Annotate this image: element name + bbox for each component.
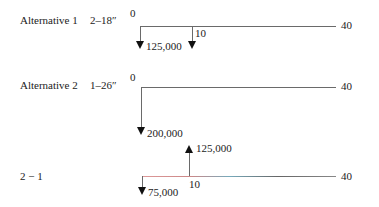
period-end-label: 40: [341, 80, 352, 92]
cashflow-amount: 75,000: [148, 186, 178, 198]
cashflow-line: [189, 153, 190, 176]
period-start-label: 0: [130, 71, 136, 83]
pipe-spec: 2–18″: [90, 14, 117, 26]
cashflow-amount: 125,000: [146, 40, 182, 52]
timeline: [142, 176, 336, 177]
timeline: [141, 87, 336, 88]
arrow-down-icon: [138, 187, 146, 195]
cashflow-amount: 200,000: [147, 127, 183, 139]
period-end-label: 40: [341, 170, 352, 182]
pipe-spec: 1–26″: [90, 79, 117, 91]
period-mid-label: 10: [189, 178, 200, 190]
arrow-up-icon: [185, 145, 193, 153]
arrow-down-icon: [137, 127, 145, 135]
timeline: [140, 26, 336, 27]
cashflow-line: [141, 87, 142, 128]
row-label: Alternative 2: [20, 79, 78, 91]
row-label: Alternative 1: [20, 14, 78, 26]
arrow-down-icon: [188, 41, 196, 49]
row-label: 2 − 1: [20, 170, 43, 182]
period-start-label: 0: [130, 7, 136, 19]
cashflow-line: [192, 26, 193, 42]
arrow-down-icon: [136, 41, 144, 49]
cashflow-line: [140, 26, 141, 42]
period-mid-label: 10: [195, 27, 206, 39]
period-end-label: 40: [341, 19, 352, 31]
cashflow-amount: 125,000: [196, 142, 232, 154]
